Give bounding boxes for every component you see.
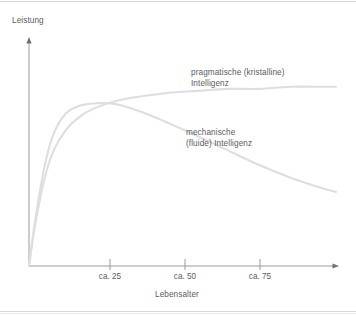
y-axis-title: Leistung	[12, 16, 44, 27]
plot-area	[0, 0, 356, 316]
x-axis-tick-label: ca. 75	[240, 272, 280, 282]
chart-figure: Leistung Lebensalter pragmatische (krist…	[0, 0, 356, 316]
series-label-pragmatic: pragmatische (kristalline)Intelligenz	[191, 68, 285, 89]
series-label-pragmatic-line2: Intelligenz	[191, 79, 229, 88]
series-label-mechanic: mechanische(fluide) Intelligenz	[186, 128, 252, 149]
x-axis-arrow-icon	[333, 263, 340, 268]
x-axis-tick-label: ca. 50	[165, 272, 205, 282]
series-label-mechanic-line2: (fluide) Intelligenz	[186, 139, 252, 148]
x-axis-tick-label: ca. 25	[90, 272, 130, 282]
series-label-mechanic-line1: mechanische	[186, 128, 235, 137]
series-curve-mechanic	[29, 103, 336, 266]
series-label-pragmatic-line1: pragmatische (kristalline)	[191, 68, 285, 77]
y-axis-arrow-icon	[26, 37, 31, 44]
x-axis-title: Lebensalter	[155, 290, 199, 301]
